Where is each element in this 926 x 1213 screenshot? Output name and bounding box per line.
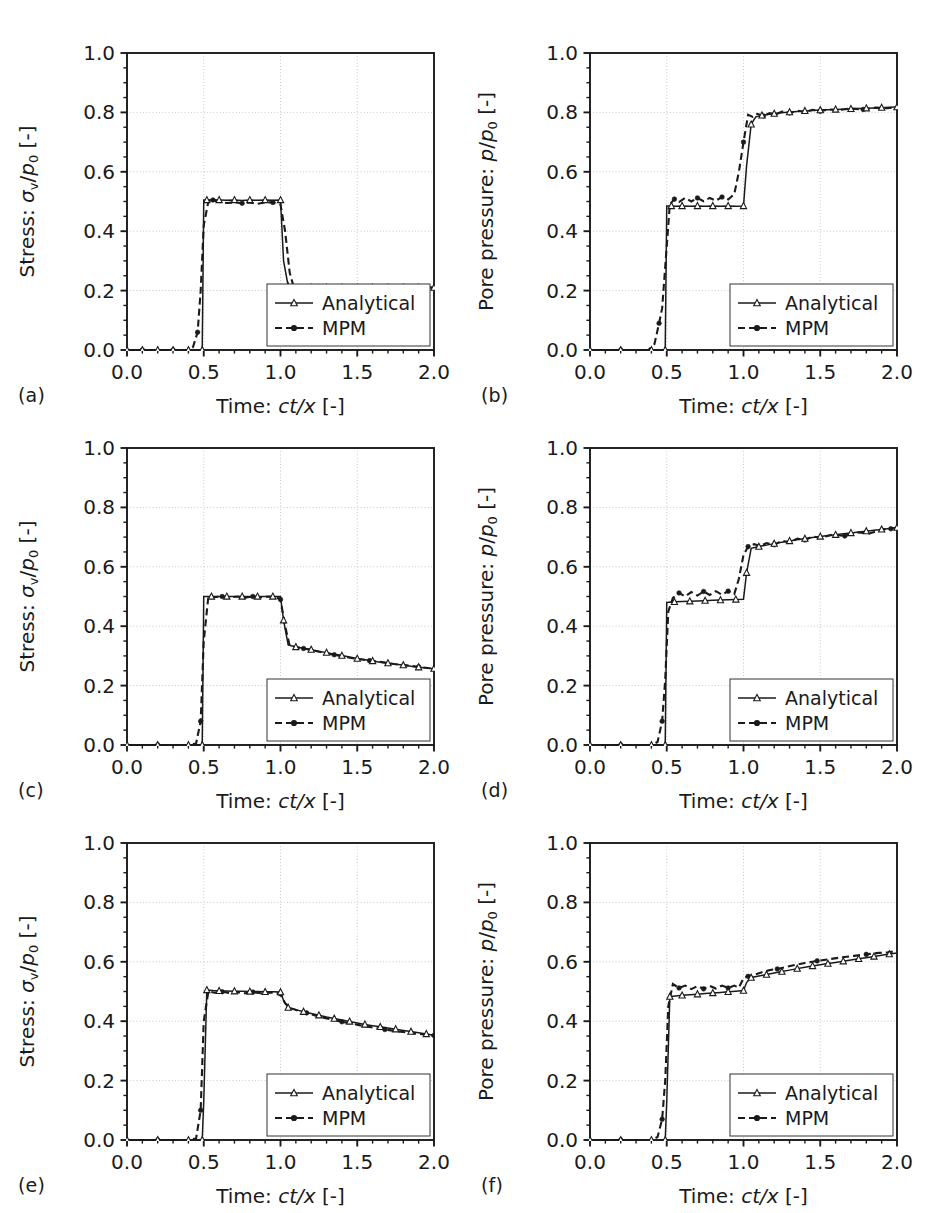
series-mpm-marker [775,967,780,972]
y-tick-label: 0.4 [546,614,578,638]
legend-mpm-label: MPM [322,712,366,734]
x-tick-label: 0.0 [574,755,606,779]
legend: AnalyticalMPM [267,1074,430,1136]
series-mpm-marker [240,201,245,206]
y-tick-label: 0.6 [83,555,115,579]
y-tick-label: 0.0 [83,338,115,362]
x-tick-label: 1.5 [341,1150,373,1174]
y-tick-label: 1.0 [546,41,578,65]
y-tick-label: 0.6 [83,950,115,974]
legend-mpm-label: MPM [322,1107,366,1129]
series-mpm-marker [677,591,682,596]
chart-panel-f: 0.00.51.01.52.00.00.20.40.60.81.0Analyti… [463,812,926,1210]
chart-panel-d: 0.00.51.01.52.00.00.20.40.60.81.0Analyti… [463,417,926,815]
x-tick-label: 0.0 [111,755,143,779]
svg-text:Pore pressure: p/p0 [-]: Pore pressure: p/p0 [-] [474,487,500,706]
x-tick-label: 1.0 [728,360,760,384]
y-tick-label: 0.6 [546,555,578,579]
svg-text:Pore pressure: p/p0 [-]: Pore pressure: p/p0 [-] [474,92,500,311]
chart-panel-e: 0.00.51.01.52.00.00.20.40.60.81.0Analyti… [0,812,463,1210]
y-tick-label: 0.8 [546,100,578,124]
y-axis-label: Pore pressure: p/p0 [-] [474,882,500,1101]
x-tick-label: 2.0 [418,360,450,384]
y-tick-label: 0.8 [546,495,578,519]
series-mpm-marker [677,986,682,991]
legend: AnalyticalMPM [730,284,893,346]
y-tick-label: 1.0 [83,41,115,65]
chart-panel-b: 0.00.51.01.52.00.00.20.40.60.81.0Analyti… [463,22,926,420]
y-tick-label: 1.0 [83,831,115,855]
legend-analytical-label: Analytical [785,292,878,314]
y-axis-label: Stress: σv/p0 [-] [15,126,41,278]
x-tick-label: 0.5 [188,1150,220,1174]
x-tick-label: 2.0 [881,1150,913,1174]
legend: AnalyticalMPM [730,1074,893,1136]
legend-mpm-label: MPM [785,317,829,339]
y-axis-label: Pore pressure: p/p0 [-] [474,92,500,311]
legend: AnalyticalMPM [267,679,430,741]
y-tick-label: 0.0 [546,733,578,757]
y-tick-label: 0.2 [546,279,578,303]
x-tick-label: 2.0 [881,755,913,779]
y-tick-label: 0.8 [83,100,115,124]
panel-label-c: (c) [18,779,44,801]
x-tick-label: 0.0 [574,360,606,384]
y-tick-label: 0.0 [546,338,578,362]
y-tick-label: 1.0 [546,831,578,855]
legend-analytical-label: Analytical [785,687,878,709]
series-analytical-marker [280,617,286,623]
y-tick-label: 0.4 [83,614,115,638]
legend-mpm-label: MPM [785,712,829,734]
y-tick-label: 0.4 [546,219,578,243]
y-axis-label: Stress: σv/p0 [-] [15,521,41,673]
series-mpm-marker [815,959,820,964]
y-tick-label: 0.8 [546,890,578,914]
x-tick-label: 1.5 [804,1150,836,1174]
y-tick-label: 0.2 [546,674,578,698]
panel-label-a: (a) [18,384,45,406]
x-tick-label: 0.5 [651,360,683,384]
legend-mpm-marker [754,720,760,726]
panel-label-f: (f) [481,1174,503,1196]
series-mpm-marker [720,195,725,200]
series-mpm-marker [726,589,731,594]
series-mpm-marker [695,196,700,201]
x-tick-label: 1.5 [341,360,373,384]
legend-analytical-label: Analytical [322,292,415,314]
y-tick-label: 0.2 [83,1069,115,1093]
legend-mpm-label: MPM [322,317,366,339]
y-tick-label: 0.4 [83,219,115,243]
y-tick-label: 1.0 [546,436,578,460]
series-mpm-marker [864,952,869,957]
legend: AnalyticalMPM [730,679,893,741]
legend-mpm-marker [291,1115,297,1121]
x-axis-label: Time: ct/x [-] [678,1184,808,1208]
x-tick-label: 0.5 [188,755,220,779]
x-tick-label: 2.0 [418,755,450,779]
svg-text:Stress: σv/p0 [-]: Stress: σv/p0 [-] [15,521,41,673]
x-tick-label: 0.0 [111,360,143,384]
x-axis-label: Time: ct/x [-] [215,789,345,813]
series-mpm-marker [701,987,706,992]
x-tick-label: 1.0 [728,1150,760,1174]
series-mpm-marker [660,1117,665,1122]
x-tick-label: 1.0 [265,360,297,384]
legend-analytical-label: Analytical [322,1082,415,1104]
x-tick-label: 1.0 [728,755,760,779]
x-axis-label: Time: ct/x [-] [215,1184,345,1208]
series-mpm-marker [195,330,200,335]
series-mpm-marker [660,719,665,724]
legend-analytical-label: Analytical [322,687,415,709]
y-tick-label: 0.0 [83,733,115,757]
figure-container: 0.00.51.01.52.00.00.20.40.60.81.0Analyti… [0,0,926,1213]
legend-mpm-label: MPM [785,1107,829,1129]
series-mpm-marker [657,321,662,326]
y-tick-label: 0.4 [83,1009,115,1033]
x-tick-label: 0.5 [651,1150,683,1174]
x-tick-label: 1.5 [341,755,373,779]
svg-text:Stress: σv/p0 [-]: Stress: σv/p0 [-] [15,126,41,278]
y-tick-label: 0.8 [83,890,115,914]
x-tick-label: 0.5 [651,755,683,779]
series-mpm-marker [701,589,706,594]
y-tick-label: 0.4 [546,1009,578,1033]
